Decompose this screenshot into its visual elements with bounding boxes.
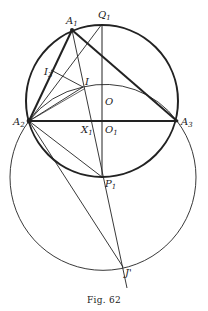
label-Q1: Q1	[98, 9, 111, 22]
line-A1J	[72, 30, 127, 288]
label-A3: A3	[180, 116, 193, 129]
line-A2Q1	[29, 24, 102, 121]
label-O1: O1	[105, 124, 118, 137]
point-A3	[176, 120, 179, 123]
geometry-figure: A1 Q1 I3 I O A2 X1 O1 A3 P1 J' Fig. 62	[0, 0, 208, 311]
point-A2	[27, 119, 32, 124]
line-I3I	[51, 70, 83, 87]
line-A2J	[29, 121, 123, 267]
label-A2: A2	[12, 116, 25, 129]
point-A1	[70, 28, 74, 32]
circles	[10, 25, 196, 270]
label-X1: X1	[80, 124, 93, 137]
label-A1: A1	[65, 15, 78, 28]
label-O: O	[105, 96, 113, 107]
figure-caption: Fig. 62	[87, 295, 121, 305]
label-I3: I3	[43, 66, 53, 79]
label-J-prime: J'	[123, 267, 132, 278]
